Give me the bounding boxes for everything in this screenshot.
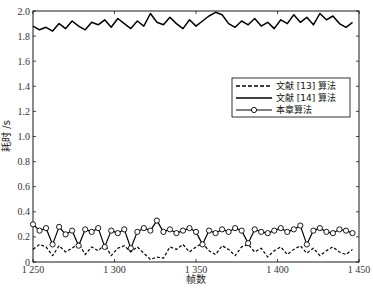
circle-marker — [304, 242, 309, 247]
y-tick-label: 0.4 — [18, 206, 31, 217]
circle-marker — [89, 229, 94, 234]
circle-marker — [200, 242, 205, 247]
circle-marker — [43, 226, 48, 231]
y-tick-label: 0.2 — [18, 231, 31, 242]
circle-marker — [206, 228, 211, 233]
circle-marker — [265, 231, 270, 236]
circle-marker — [239, 228, 244, 233]
circle-marker — [37, 228, 42, 233]
plot-frame — [33, 11, 359, 262]
circle-marker — [317, 226, 322, 231]
circle-marker — [285, 229, 290, 234]
y-tick-label: 0.8 — [18, 156, 31, 167]
y-tick-label: 1.8 — [18, 31, 31, 42]
circle-marker — [259, 229, 264, 234]
legend-label: 文献 [13] 算法 — [276, 80, 336, 91]
circle-marker — [187, 226, 192, 231]
circle-marker — [252, 227, 257, 232]
circle-marker — [128, 246, 133, 251]
y-tick-label: 0.6 — [18, 181, 31, 192]
circle-marker — [311, 228, 316, 233]
circle-marker — [324, 229, 329, 234]
circle-marker — [343, 228, 348, 233]
circle-marker — [226, 229, 231, 234]
circle-marker — [278, 226, 283, 231]
circle-marker — [141, 226, 146, 231]
circle-marker — [115, 231, 120, 236]
x-tick-label: 1 450 — [348, 264, 371, 275]
circle-marker — [161, 229, 166, 234]
circle-marker — [63, 232, 68, 237]
circle-marker — [135, 229, 140, 234]
circle-marker-icon — [251, 107, 256, 112]
circle-marker — [56, 224, 61, 229]
circle-marker — [167, 227, 172, 232]
x-tick-label: 1 400 — [266, 264, 289, 275]
legend-label: 本章算法 — [276, 104, 312, 115]
circle-marker — [298, 223, 303, 228]
circle-marker — [50, 242, 55, 247]
y-tick-label: 1.2 — [18, 106, 31, 117]
circle-marker — [109, 228, 114, 233]
circle-marker — [70, 228, 75, 233]
x-axis-title: 帧数 — [186, 273, 206, 285]
circle-marker — [102, 244, 107, 249]
legend-label: 文献 [14] 算法 — [276, 92, 336, 103]
circle-marker — [122, 227, 127, 232]
circle-marker — [180, 228, 185, 233]
circle-marker — [330, 231, 335, 236]
circle-marker — [148, 228, 153, 233]
circle-marker — [219, 227, 224, 232]
y-tick-label: 1.4 — [18, 81, 31, 92]
y-axis-title: 耗时 /s — [1, 120, 12, 152]
circle-marker — [213, 231, 218, 236]
circle-marker — [272, 228, 277, 233]
y-tick-label: 1.6 — [18, 56, 31, 67]
circle-marker — [76, 243, 81, 248]
circle-marker — [193, 229, 198, 234]
circle-marker — [96, 226, 101, 231]
circle-marker — [30, 222, 35, 227]
circle-marker — [83, 227, 88, 232]
x-tick-label: 1 300 — [103, 264, 126, 275]
circle-marker — [291, 227, 296, 232]
circle-marker — [174, 231, 179, 236]
plot-area — [33, 11, 359, 262]
circle-marker — [233, 226, 238, 231]
circle-marker — [246, 241, 251, 246]
circle-marker — [337, 227, 342, 232]
circle-marker — [350, 231, 355, 236]
legend: 文献 [13] 算法 文献 [14] 算法 本章算法 — [232, 78, 350, 117]
line-chart: 00.20.40.60.81.01.21.41.61.82.01 2501 30… — [0, 0, 373, 290]
y-tick-label: 2.0 — [18, 6, 31, 17]
circle-marker — [154, 218, 159, 223]
y-tick-label: 1.0 — [18, 131, 31, 142]
x-tick-label: 1 250 — [22, 264, 45, 275]
